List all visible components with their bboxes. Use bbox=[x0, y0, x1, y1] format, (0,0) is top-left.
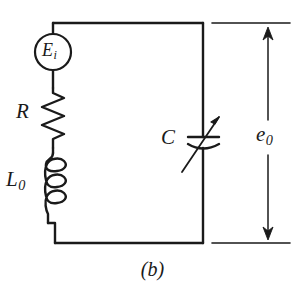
capacitor-label: C bbox=[161, 127, 176, 150]
resistor-label: R bbox=[16, 101, 29, 124]
resistor-label-main: R bbox=[16, 99, 29, 123]
source-label-main: E bbox=[42, 40, 53, 60]
output-voltage-label: e0 bbox=[256, 124, 273, 147]
circuit-figure: Ei R L0 C e0 (b) bbox=[0, 0, 305, 291]
output-voltage-label-main: e bbox=[256, 122, 265, 146]
figure-caption: (b) bbox=[0, 258, 305, 281]
inductor-label: L0 bbox=[6, 169, 25, 192]
inductor-label-sub: 0 bbox=[18, 177, 26, 193]
capacitor-label-sub bbox=[175, 135, 176, 151]
capacitor-label-main: C bbox=[161, 125, 175, 149]
inductor-label-main: L bbox=[6, 167, 18, 191]
capacitor-variability-arrowhead bbox=[211, 117, 219, 124]
wire-inductor-step bbox=[48, 223, 55, 243]
source-label: Ei bbox=[42, 41, 57, 62]
output-voltage-label-sub: 0 bbox=[265, 132, 273, 148]
resistor-label-sub bbox=[29, 109, 30, 125]
resistor-zigzag bbox=[42, 88, 64, 148]
inductor-coil bbox=[45, 153, 66, 223]
capacitor-plate-curved bbox=[188, 144, 219, 149]
source-label-sub: i bbox=[53, 48, 57, 62]
